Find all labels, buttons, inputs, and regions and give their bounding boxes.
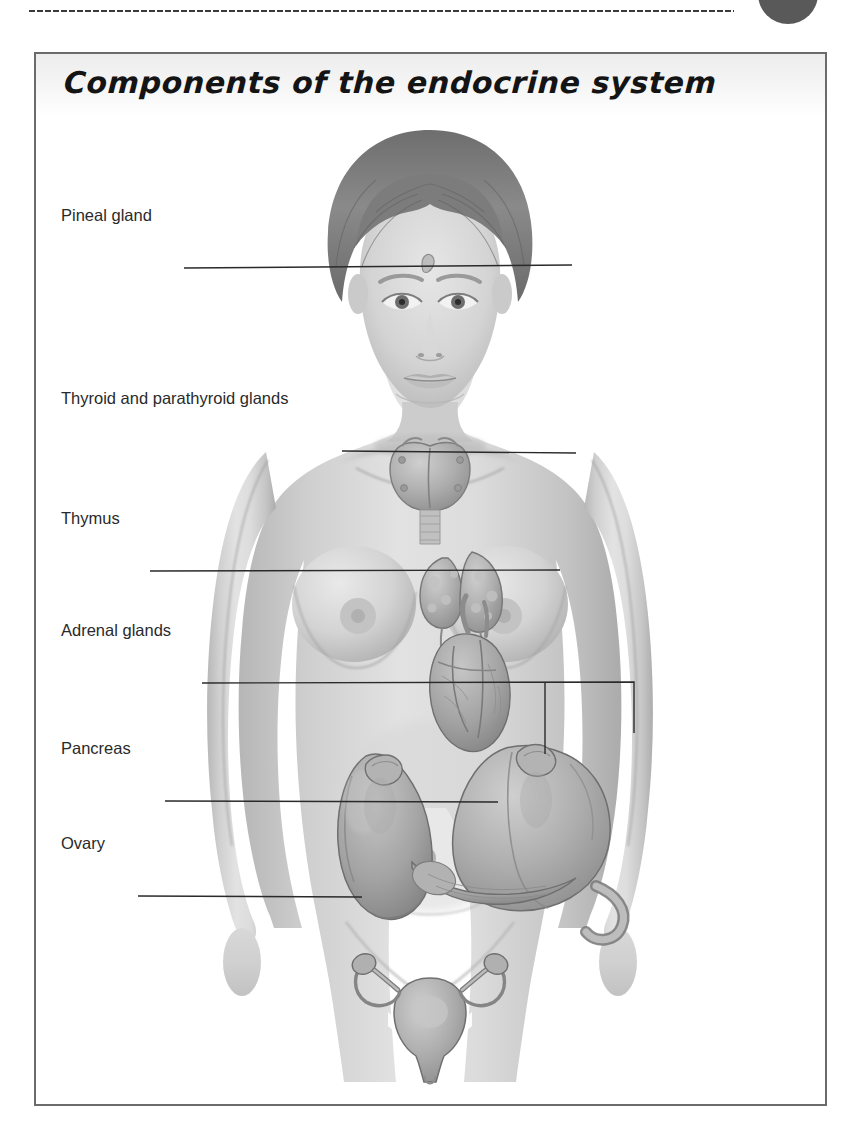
female-endocrine-system-illustration xyxy=(36,116,825,1104)
figure-box: Components of the endocrine system xyxy=(34,52,827,1106)
anatomy-drawing xyxy=(36,116,825,1104)
parathyroid-lower-left xyxy=(401,485,408,492)
label-pancreas: Pancreas xyxy=(61,740,131,757)
label-ovary: Ovary xyxy=(61,835,105,852)
label-thymus: Thymus xyxy=(61,510,120,527)
label-adrenal-glands: Adrenal glands xyxy=(61,622,171,639)
left-hand xyxy=(223,928,261,996)
figure-title-band: Components of the endocrine system xyxy=(36,54,825,116)
uterus xyxy=(394,978,466,1082)
parathyroid-lower-right xyxy=(455,485,462,492)
figure-title: Components of the endocrine system xyxy=(63,65,718,100)
dotted-rule-decoration xyxy=(28,9,734,13)
parathyroid-upper-left xyxy=(399,457,406,464)
label-thyroid-and-parathyroid: Thyroid and parathyroid glands xyxy=(61,390,288,407)
page-corner-circle-decoration xyxy=(758,0,818,24)
parathyroid-upper-right xyxy=(457,457,464,464)
label-pineal-gland: Pineal gland xyxy=(61,207,152,224)
